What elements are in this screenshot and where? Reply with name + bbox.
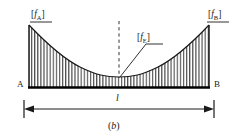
dimension-line-l <box>24 100 214 118</box>
caption-close-paren: ) <box>116 120 119 131</box>
right-bracket-close: ] <box>218 9 221 19</box>
figure-container: [fA] [fB] [fE] A B l (b) <box>0 0 238 137</box>
label-allowable-stress-a: [fA] <box>31 10 45 21</box>
label-allowable-stress-b: [fB] <box>208 10 221 21</box>
arrowhead-left-icon <box>24 106 34 113</box>
arrowhead-right-icon <box>204 106 214 113</box>
node-label-a: A <box>17 80 24 89</box>
mid-bracket-close: ] <box>147 32 150 42</box>
label-allowable-stress-e: [fE] <box>137 33 150 44</box>
dimension-label-span: l <box>116 93 119 103</box>
figure-caption: (b) <box>108 121 120 131</box>
left-bracket-close: ] <box>42 9 45 19</box>
node-label-b: B <box>214 80 220 89</box>
